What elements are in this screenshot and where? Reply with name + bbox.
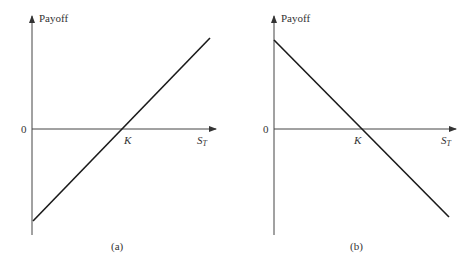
payoff-diagrams: Payoff 0 K ST (a) Payoff 0 K ST (b) [0, 0, 475, 263]
panel-label: (a) [111, 240, 124, 253]
panel-b: Payoff 0 K ST (b) [263, 12, 456, 253]
x-axis-label: ST [441, 134, 452, 148]
y-axis-label: Payoff [281, 12, 310, 24]
panel-label: (b) [350, 240, 363, 253]
x-axis-label: ST [197, 134, 208, 148]
panel-a: Payoff 0 K ST (a) [21, 12, 216, 253]
origin-label: 0 [263, 123, 269, 135]
strike-label: K [123, 134, 132, 146]
origin-label: 0 [21, 123, 27, 135]
strike-label: K [353, 134, 362, 146]
y-axis-label: Payoff [39, 12, 68, 24]
